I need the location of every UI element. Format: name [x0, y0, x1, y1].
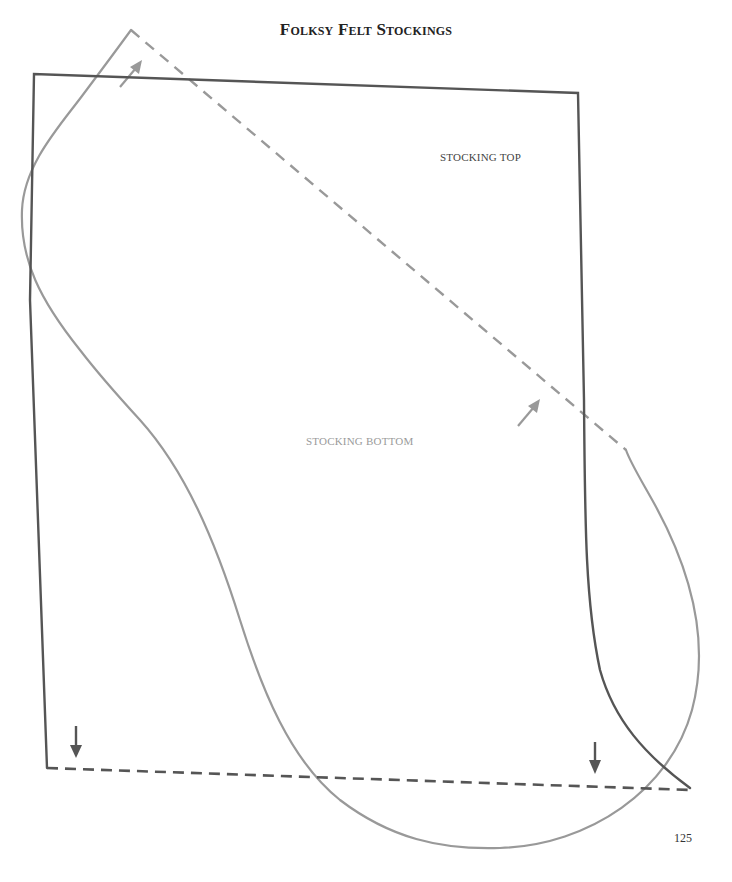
fold-arrow-icon — [70, 726, 82, 758]
stocking-top-piece — [30, 74, 692, 790]
page-number: 125 — [674, 831, 692, 846]
stocking-top-outline — [30, 74, 690, 788]
grain-arrow-icon — [120, 60, 142, 87]
grain-arrow-icon — [518, 399, 540, 426]
stocking-bottom-label: Stocking Bottom — [306, 435, 413, 447]
pattern-page: Folksy Felt Stockings — [0, 0, 732, 882]
stocking-top-label: Stocking Top — [440, 151, 521, 163]
fold-arrow-icon — [589, 742, 601, 774]
